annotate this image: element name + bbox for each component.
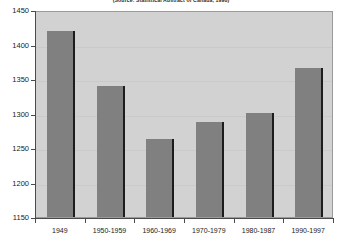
x-axis-label: 1950-1959 (85, 226, 135, 235)
bar-chart: (Source: Statistical Abstract of Canada,… (0, 0, 342, 243)
x-axis-tick (333, 219, 334, 223)
bar (47, 31, 75, 217)
x-axis-tick (134, 219, 135, 223)
y-axis-label: 1350 (0, 76, 29, 84)
y-axis-tick (31, 46, 35, 47)
gridline (36, 185, 332, 186)
bar (295, 68, 323, 217)
y-axis-tick (31, 115, 35, 116)
x-axis-label: 1980-1987 (234, 226, 284, 235)
bar (97, 86, 125, 217)
x-axis-label: 1990-1997 (283, 226, 333, 235)
y-axis-label: 1150 (0, 214, 29, 222)
x-axis-label: 1970-1979 (184, 226, 234, 235)
y-axis-tick (31, 184, 35, 185)
gridline (36, 81, 332, 82)
chart-title: (Source: Statistical Abstract of Canada,… (0, 0, 342, 4)
y-axis-tick (31, 11, 35, 12)
x-axis-tick (184, 219, 185, 223)
gridline (36, 47, 332, 48)
y-axis-line (35, 11, 36, 219)
y-axis-label: 1300 (0, 111, 29, 119)
y-axis-tick (31, 80, 35, 81)
y-axis-label: 1400 (0, 42, 29, 50)
x-axis-tick (234, 219, 235, 223)
y-axis-tick (31, 149, 35, 150)
x-axis-label: 1949 (35, 226, 85, 235)
x-axis-tick (283, 219, 284, 223)
x-axis-tick (85, 219, 86, 223)
x-axis-label: 1960-1969 (134, 226, 184, 235)
y-axis-label: 1450 (0, 7, 29, 15)
y-axis-label: 1200 (0, 180, 29, 188)
y-axis-label: 1250 (0, 145, 29, 153)
bar (246, 113, 274, 217)
gridline (36, 116, 332, 117)
plot-area (35, 11, 333, 218)
bar (196, 122, 224, 217)
bar (146, 139, 174, 217)
gridline (36, 150, 332, 151)
x-axis-tick (35, 219, 36, 223)
